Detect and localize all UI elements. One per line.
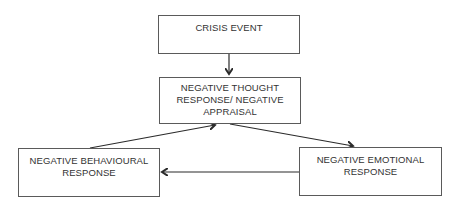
node-negative-behavioural-line-2: RESPONSE (19, 167, 159, 179)
node-negative-emotional: NEGATIVE EMOTIONAL RESPONSE (299, 147, 442, 196)
node-negative-emotional-line-2: RESPONSE (300, 166, 441, 178)
node-crisis-event-line-1: CRISIS EVENT (159, 22, 299, 34)
node-negative-behavioural-line-1: NEGATIVE BEHAVIOURAL (19, 155, 159, 167)
arrow-behavioural-to-thought (90, 125, 215, 148)
node-negative-thought-line-1: NEGATIVE THOUGHT (160, 82, 300, 94)
node-negative-emotional-line-1: NEGATIVE EMOTIONAL (300, 154, 441, 166)
node-crisis-event: CRISIS EVENT (158, 15, 300, 54)
node-negative-thought: NEGATIVE THOUGHT RESPONSE/ NEGATIVE APPR… (159, 77, 301, 124)
node-negative-thought-line-2: RESPONSE/ NEGATIVE (160, 94, 300, 106)
arrow-thought-to-emotional (230, 124, 353, 146)
node-negative-behavioural: NEGATIVE BEHAVIOURAL RESPONSE (18, 148, 160, 197)
node-negative-thought-line-3: APPRAISAL (160, 106, 300, 118)
